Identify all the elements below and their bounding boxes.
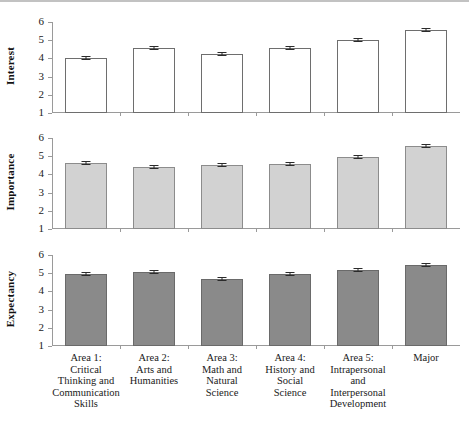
chart-figure: Interest123456Importance123456Expectancy… (0, 0, 469, 426)
bar (337, 40, 379, 113)
bar (201, 279, 243, 346)
bar (405, 265, 447, 346)
error-bar (148, 270, 160, 274)
y-tick-label: 2 (22, 88, 44, 100)
y-tick (48, 22, 52, 23)
y-tick (48, 58, 52, 59)
error-bar (80, 272, 92, 276)
y-axis-label: Interest (4, 34, 16, 98)
y-tick-label: 1 (22, 339, 44, 351)
bar (65, 58, 107, 113)
y-tick (48, 77, 52, 78)
plot-area: 123456 (52, 22, 460, 113)
x-category-label-line: Skills (44, 398, 128, 410)
x-category-label-line: Major (384, 352, 468, 364)
y-tick-label: 1 (22, 222, 44, 234)
y-tick (48, 291, 52, 292)
bar (337, 270, 379, 346)
x-tick (324, 113, 325, 116)
x-tick (188, 346, 189, 349)
y-axis-line (52, 22, 53, 113)
y-axis-label: Importance (4, 150, 16, 214)
bar (133, 167, 175, 229)
y-tick (48, 346, 52, 347)
y-tick-label: 2 (22, 204, 44, 216)
error-bar (80, 161, 92, 165)
y-tick-label: 6 (22, 248, 44, 260)
error-bar (148, 165, 160, 169)
x-tick (120, 229, 121, 232)
x-tick (120, 346, 121, 349)
bar (405, 30, 447, 113)
x-tick (392, 346, 393, 349)
y-tick-label: 3 (22, 303, 44, 315)
y-tick (48, 113, 52, 114)
x-tick (120, 113, 121, 116)
error-bar (284, 46, 296, 50)
y-tick (48, 255, 52, 256)
error-bar (80, 56, 92, 60)
y-tick-label: 6 (22, 131, 44, 143)
y-tick (48, 95, 52, 96)
y-tick-label: 2 (22, 321, 44, 333)
x-tick (256, 346, 257, 349)
error-bar (352, 155, 364, 159)
x-tick (188, 113, 189, 116)
bar (65, 274, 107, 346)
bar (269, 164, 311, 229)
x-tick (324, 346, 325, 349)
y-tick (48, 310, 52, 311)
x-tick (392, 229, 393, 232)
error-bar (352, 38, 364, 42)
x-tick (256, 229, 257, 232)
bar (201, 54, 243, 113)
error-bar (420, 28, 432, 32)
x-category-label-line: Communication (44, 387, 128, 399)
plot-area: 123456 (52, 255, 460, 346)
error-bar (148, 46, 160, 50)
y-tick-label: 5 (22, 266, 44, 278)
error-bar (420, 263, 432, 267)
y-tick-label: 4 (22, 51, 44, 63)
bar (269, 48, 311, 113)
x-category-label-line: Interpersonal (316, 387, 400, 399)
x-tick (256, 113, 257, 116)
y-tick (48, 156, 52, 157)
y-tick-label: 4 (22, 284, 44, 296)
y-tick (48, 211, 52, 212)
error-bar (216, 277, 228, 281)
y-tick (48, 174, 52, 175)
y-tick-label: 6 (22, 15, 44, 27)
y-tick-label: 3 (22, 70, 44, 82)
error-bar (420, 144, 432, 148)
bar (201, 165, 243, 229)
y-tick (48, 40, 52, 41)
bar (133, 272, 175, 346)
x-category-label-line: and (316, 375, 400, 387)
y-tick-label: 4 (22, 167, 44, 179)
y-axis-line (52, 138, 53, 229)
y-tick (48, 138, 52, 139)
x-tick (324, 229, 325, 232)
x-category-label-line: Intrapersonal (316, 364, 400, 376)
x-tick (188, 229, 189, 232)
error-bar (216, 52, 228, 56)
y-tick-label: 3 (22, 186, 44, 198)
x-category-label: Major (384, 352, 468, 364)
figure-top-rule (0, 0, 469, 2)
error-bar (284, 162, 296, 166)
bar (133, 48, 175, 113)
error-bar (352, 268, 364, 272)
bar (65, 163, 107, 229)
bar (269, 274, 311, 346)
y-tick (48, 193, 52, 194)
y-axis-line (52, 255, 53, 346)
y-tick-label: 1 (22, 106, 44, 118)
y-tick (48, 229, 52, 230)
y-tick-label: 5 (22, 33, 44, 45)
error-bar (216, 163, 228, 167)
bar (405, 146, 447, 229)
x-category-label-line: Development (316, 398, 400, 410)
x-tick (392, 113, 393, 116)
error-bar (284, 272, 296, 276)
